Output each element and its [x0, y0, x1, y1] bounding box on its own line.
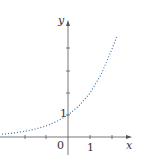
origin-label: 0 — [57, 140, 64, 151]
y-axis-arrow-icon — [66, 20, 70, 26]
y-one-label: 1 — [60, 108, 67, 119]
x-one-label: 1 — [87, 142, 94, 153]
x-axis-label: x — [126, 140, 132, 151]
y-axis-label: y — [58, 15, 64, 26]
